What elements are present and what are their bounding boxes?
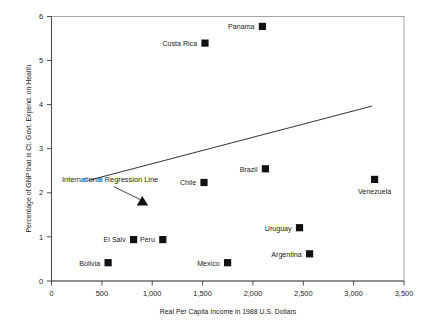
point-label: Peru (140, 236, 155, 244)
y-tick-label: 0 (39, 277, 43, 286)
data-point-chile: Chile (180, 179, 208, 187)
point-label: Costa Rica (162, 40, 197, 48)
y-axis-ticks: 0 1 2 3 4 5 6 (39, 12, 52, 286)
data-point-mexico: Mexico (197, 259, 231, 267)
marker-square (296, 224, 303, 231)
marker-square (201, 40, 208, 47)
x-tick-label: 3,000 (344, 289, 363, 298)
marker-square (105, 259, 112, 266)
data-point-costa-rica: Costa Rica (162, 40, 208, 48)
x-tick-label: 2,000 (244, 289, 263, 298)
data-point-brazil: Brazil (240, 165, 269, 173)
data-point-uruguay: Uruguay (265, 224, 303, 232)
point-label: Chile (180, 179, 196, 187)
marker-square (371, 176, 378, 183)
point-label: Uruguay (265, 225, 292, 233)
data-point-argentina: Argentina (271, 250, 313, 258)
regression-line-triangle-marker (137, 196, 148, 206)
y-tick-label: 3 (39, 144, 43, 153)
x-axis-title: Real Per Capita Income in 1988 U.S. Doll… (160, 308, 297, 316)
point-label: El Salv (104, 236, 127, 244)
scatter-plot: 0 1 2 3 4 5 6 0 500 1,000 1,500 (0, 0, 429, 329)
annotation-arrow-icon (114, 187, 140, 200)
x-tick-label: 2,500 (294, 289, 313, 298)
y-tick-label: 1 (39, 233, 43, 242)
data-point-peru: Peru (140, 236, 166, 244)
y-tick-label: 6 (39, 12, 43, 21)
regression-line-annotation-label: International Regression Line (62, 175, 158, 184)
point-label: Panama (228, 23, 254, 31)
x-tick-label: 1,500 (193, 289, 212, 298)
x-tick-label: 0 (49, 289, 53, 298)
marker-square (306, 250, 313, 257)
data-point-el-salvador: El Salv (104, 236, 138, 244)
y-tick-label: 2 (39, 188, 43, 197)
point-label: Venezuela (358, 188, 391, 196)
y-axis-title: Percentage of GNP that is Ct. Govt. Expe… (25, 65, 33, 233)
point-label: Argentina (271, 251, 301, 259)
x-axis-ticks: 0 500 1,000 1,500 2,000 2,500 3,000 3,50… (49, 281, 413, 298)
marker-square (130, 236, 137, 243)
chart-figure: 0 1 2 3 4 5 6 0 500 1,000 1,500 (0, 0, 429, 329)
y-tick-label: 5 (39, 56, 43, 65)
marker-square (159, 236, 166, 243)
x-tick-label: 500 (96, 289, 108, 298)
data-point-venezuela: Venezuela (358, 176, 391, 196)
marker-square (262, 165, 269, 172)
point-label: Brazil (240, 166, 258, 174)
x-tick-label: 1,000 (143, 289, 162, 298)
data-point-panama: Panama (228, 23, 266, 31)
marker-square (200, 179, 207, 186)
y-tick-label: 4 (39, 100, 43, 109)
x-tick-label: 3,500 (395, 289, 414, 298)
point-label: Mexico (197, 260, 220, 268)
point-label: Bolivia (79, 260, 100, 268)
data-point-bolivia: Bolivia (79, 259, 111, 267)
regression-line (89, 106, 372, 180)
marker-square (259, 23, 266, 30)
marker-square (224, 259, 231, 266)
